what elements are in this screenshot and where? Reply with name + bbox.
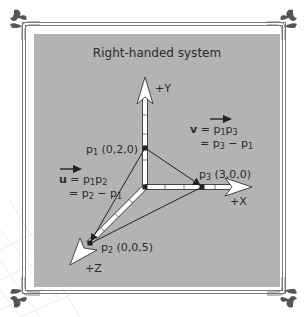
coordinate-axes-diagram [0,0,307,317]
z-axis-label: +Z [85,262,102,275]
point-p3-label: p3 (3,0,0) [199,168,251,182]
point-p3-marker [200,185,205,190]
vector-u-equation-line2: = p2 − p1 [69,187,122,201]
origin-marker [143,185,148,190]
vector-v-line [145,148,200,185]
vector-v-equation-line1: v = p1p3 [190,123,238,137]
y-axis-label: +Y [155,82,171,95]
vector-v-overarrow-icon [210,115,232,123]
point-p2-label: p2 (0,0,5) [101,241,153,255]
point-p1-label: p1 (0,2,0) [86,143,138,157]
vector-v-equation-line2: = p3 − p1 [200,137,253,151]
vector-u-overarrow-icon [60,165,82,173]
x-axis-label: +X [230,195,247,208]
point-p2-marker [88,241,93,246]
point-p1-marker [143,146,148,151]
vector-u-equation-line1: u = p1p2 [59,173,107,187]
y-axis [137,77,153,187]
